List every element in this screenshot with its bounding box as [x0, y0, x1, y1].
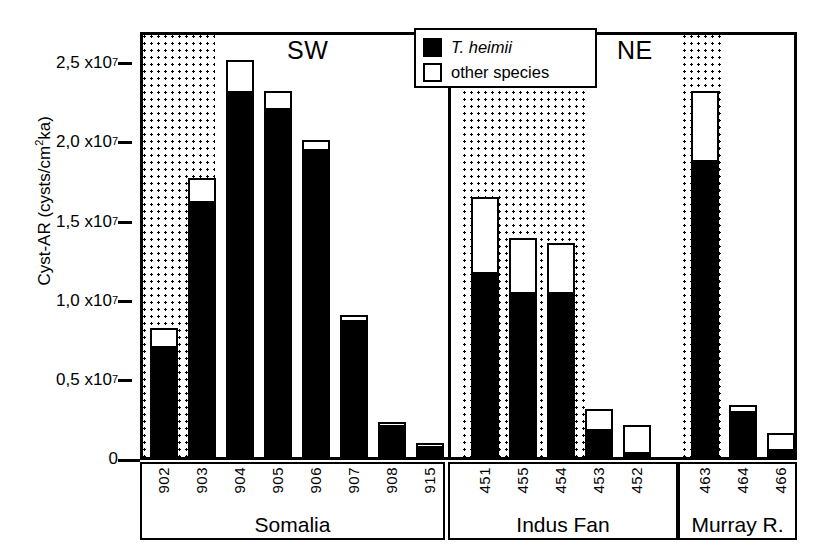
y-tick-mark-2.0e7 — [118, 141, 132, 144]
site-labels-indus-fan: 451455454453452 — [450, 464, 676, 514]
y-tick-label-1.0e7: 1,0 x107 — [22, 291, 118, 311]
y-tick-label-2.0e7: 2,0 x107 — [22, 132, 118, 152]
legend-swatch-filled-icon — [423, 38, 442, 57]
site-label-915: 915 — [421, 467, 438, 494]
chart-figure: Cyst-AR (cysts/cm2ka) 2,5 x107 2,0 x107 … — [0, 0, 817, 552]
site-label-454: 454 — [552, 467, 569, 494]
y-tick-mark-zero — [118, 459, 140, 462]
bar-segment-t-heimii-908 — [380, 425, 404, 455]
bar-segment-t-heimii-453 — [587, 429, 611, 455]
site-label-905: 905 — [269, 467, 286, 494]
plot-area — [140, 32, 797, 460]
site-label-466: 466 — [772, 467, 789, 494]
bar-segment-t-heimii-451 — [473, 272, 497, 455]
bar-site-452 — [623, 425, 651, 457]
site-label-452: 452 — [628, 467, 645, 494]
site-label-455: 455 — [514, 467, 531, 494]
x-axis-group-boxes: 902903904905906907908915 Somalia 4514554… — [140, 462, 797, 540]
bar-segment-t-heimii-452 — [625, 452, 649, 455]
group-name-indus-fan: Indus Fan — [450, 513, 676, 537]
site-label-463: 463 — [696, 467, 713, 494]
legend-item-other-species: other species — [423, 60, 589, 85]
site-label-904: 904 — [231, 467, 248, 494]
group-box-indus-fan: 451455454453452 Indus Fan — [448, 462, 678, 540]
y-tick-label-0: 0 — [22, 449, 118, 469]
bar-site-454 — [547, 243, 575, 457]
y-tick-label-2.5e7: 2,5 x107 — [22, 53, 118, 73]
bar-segment-t-heimii-903 — [190, 201, 214, 455]
plot-inner — [143, 35, 794, 457]
legend-label-other-species: other species — [451, 63, 549, 82]
y-tick-mark-2.5e7 — [118, 62, 132, 65]
bar-site-904 — [226, 60, 254, 457]
bar-segment-t-heimii-463 — [693, 160, 717, 455]
legend-swatch-open-icon — [423, 63, 442, 82]
bar-segment-t-heimii-905 — [266, 108, 290, 456]
bar-site-903 — [188, 178, 216, 457]
region-label-ne: NE — [617, 36, 653, 65]
bar-segment-t-heimii-915 — [418, 446, 442, 455]
bar-segment-t-heimii-455 — [511, 292, 535, 455]
bar-site-908 — [378, 422, 406, 457]
y-tick-label-1.5e7: 1,5 x107 — [22, 212, 118, 232]
region-label-sw: SW — [287, 36, 328, 65]
y-tick-label-0.5e7: 0,5 x107 — [22, 370, 118, 390]
site-label-906: 906 — [307, 467, 324, 494]
bar-site-906 — [302, 140, 330, 457]
site-labels-somalia: 902903904905906907908915 — [142, 464, 443, 514]
bar-segment-t-heimii-902 — [152, 346, 176, 455]
bar-site-466 — [767, 433, 795, 457]
bar-segment-t-heimii-906 — [304, 149, 328, 455]
bar-site-907 — [340, 315, 368, 457]
site-label-903: 903 — [193, 467, 210, 494]
legend-item-t-heimii: T. heimii — [423, 35, 589, 60]
y-tick-mark-1.5e7 — [118, 221, 132, 224]
group-box-somalia: 902903904905906907908915 Somalia — [140, 462, 445, 540]
bar-segment-t-heimii-454 — [549, 292, 573, 455]
bar-site-905 — [264, 91, 292, 457]
bar-site-464 — [729, 405, 757, 457]
site-label-902: 902 — [155, 467, 172, 494]
y-tick-mark-1.0e7 — [118, 300, 132, 303]
site-label-908: 908 — [383, 467, 400, 494]
region-divider-sw-ne — [448, 35, 451, 457]
bar-segment-t-heimii-907 — [342, 320, 366, 455]
y-axis-ticks: 2,5 x107 2,0 x107 1,5 x107 1,0 x107 0,5 … — [22, 0, 118, 552]
bar-segment-t-heimii-904 — [228, 91, 252, 455]
site-labels-murray-r: 463464466 — [680, 464, 795, 514]
bar-site-453 — [585, 409, 613, 457]
bar-site-915 — [416, 443, 444, 457]
group-box-murray-r: 463464466 Murray R. — [678, 462, 797, 540]
group-name-somalia: Somalia — [142, 513, 443, 537]
bar-site-902 — [150, 328, 178, 457]
bar-site-451 — [471, 197, 499, 457]
site-label-451: 451 — [476, 467, 493, 494]
bar-site-455 — [509, 238, 537, 457]
bar-segment-t-heimii-464 — [731, 411, 755, 455]
legend: T. heimii other species — [414, 28, 597, 88]
site-label-464: 464 — [734, 467, 751, 494]
bar-site-463 — [691, 91, 719, 457]
site-label-907: 907 — [345, 467, 362, 494]
legend-label-t-heimii: T. heimii — [451, 38, 512, 57]
y-tick-mark-0.5e7 — [118, 379, 132, 382]
bar-segment-t-heimii-466 — [769, 449, 793, 456]
site-label-453: 453 — [590, 467, 607, 494]
group-name-murray-r: Murray R. — [680, 513, 795, 537]
